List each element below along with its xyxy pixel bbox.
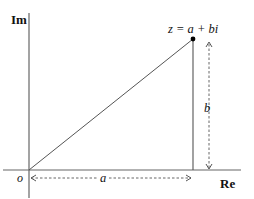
point-z bbox=[191, 37, 196, 42]
complex-plane-diagram: Im Re o z = a + bi a b bbox=[0, 0, 254, 199]
imag-part-label: b bbox=[204, 101, 210, 115]
point-z-label: z = a + bi bbox=[167, 22, 219, 36]
origin-label: o bbox=[17, 171, 23, 185]
imaginary-axis-label: Im bbox=[11, 12, 27, 27]
modulus-line bbox=[29, 39, 193, 170]
real-part-label: a bbox=[100, 171, 106, 185]
real-axis-label: Re bbox=[220, 176, 235, 191]
a-dimension-arrow bbox=[31, 175, 191, 181]
